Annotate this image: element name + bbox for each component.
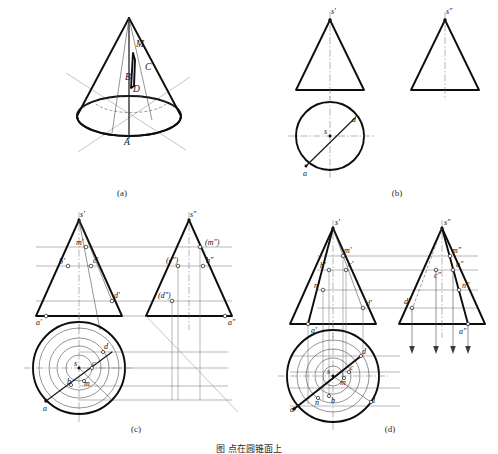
panel-b-line-sa [306, 118, 355, 166]
panel-d-top-ray-1 [333, 376, 371, 402]
panel-b-label-s-prime: s' [331, 7, 336, 16]
panel-d-label-c-prime: c' [348, 260, 354, 269]
panel-c-top-label-b: b [67, 377, 71, 386]
panel-a-section-arc [96, 104, 166, 113]
panel-c-top-label-a: a [43, 404, 47, 413]
panel-c-top-point-a [45, 400, 48, 403]
panel-a-right-generatrix [129, 18, 181, 116]
panel-d-top-point-s [332, 375, 334, 377]
panel-b-label-a: a [303, 169, 307, 178]
panel-c-side-apex-node [188, 219, 191, 222]
panel-d-label-n-prime: n' [314, 281, 320, 290]
panel-c-auxiliary-circle-method: s' m' b' c' d' a' s" (m") (c") b" (d") a… [24, 210, 238, 434]
panel-d-top-label-b: b [331, 396, 335, 405]
panel-c-label-m-prime: m' [76, 238, 84, 247]
figure-root: M C B D A (a) s' s" [0, 0, 498, 454]
panel-c-point-m-prime [84, 245, 88, 249]
panel-d-top-label-c: c [350, 363, 354, 372]
panel-d-label-m-dprime: m" [452, 246, 462, 255]
panel-a-label-M: M [135, 39, 145, 49]
panel-a-left-generatrix [77, 18, 129, 116]
panel-a-caption: (a) [117, 188, 127, 198]
panel-a-label-D: D [132, 84, 140, 94]
panel-d-label-m-prime: m' [344, 246, 352, 255]
panel-d-top-label-s: s [327, 367, 330, 376]
panel-c-mitre-line [146, 316, 238, 412]
panel-c-label-a-dprime: a" [228, 318, 236, 327]
panel-c-top-label-s: s [74, 359, 77, 368]
panel-c-top-label-d: d [104, 342, 109, 351]
panel-b-caption: (b) [392, 188, 403, 198]
panel-d-label-s-prime: s' [335, 218, 340, 227]
panel-d-label-s-dprime: s" [444, 218, 451, 227]
panel-d-label-c-dprime: c" [434, 271, 442, 280]
panel-d-label-d-dprime: d" [404, 297, 412, 306]
panel-d-top-label-m: m [340, 378, 346, 387]
panel-d-front-generatrix-sd [333, 228, 363, 310]
panel-c-point-a-dprime [223, 314, 227, 318]
panel-c-top-label-m: m [84, 379, 90, 388]
panel-c-top-label-c: c [92, 359, 96, 368]
panel-d-top-label-1: 1 [372, 396, 376, 405]
panel-d-label-a-dprime: a" [459, 327, 467, 336]
panel-c-label-d-prime: d' [114, 291, 120, 300]
panel-d-arrow-head-2 [433, 346, 439, 354]
technical-drawing-canvas: M C B D A (a) s' s" [0, 0, 498, 454]
panel-c-point-a-prime [44, 314, 48, 318]
panel-b-point-a-node [305, 165, 307, 167]
panel-d-label-b-dprime: b" [456, 260, 464, 269]
panel-d-arrow-head-3 [450, 346, 456, 354]
panel-a-label-B: B [125, 72, 131, 82]
panel-b-side-apex-node [444, 19, 447, 22]
panel-b-label-s-dprime: s" [446, 7, 453, 16]
panel-a-label-A: A [123, 137, 130, 147]
panel-b-label-s: s [324, 127, 327, 136]
figure-caption: 图 点在圆锥面上 [216, 443, 282, 454]
panel-d-arrow-head-4 [465, 346, 471, 354]
panel-d-top-label-n: n [315, 398, 319, 407]
panel-d-label-b-prime: b' [320, 261, 326, 270]
panel-c-label-b-prime: b' [59, 257, 65, 266]
panel-b-front-apex-node [329, 19, 332, 22]
panel-a-label-C: C [145, 62, 152, 72]
panel-b-center-node [329, 135, 331, 137]
panel-c-label-s-prime: s' [80, 210, 85, 219]
panel-c-label-c-dprime: (c") [166, 256, 179, 265]
panel-c-label-a-prime: a' [36, 318, 42, 327]
panel-a-pictorial-cone: M C B D A (a) [66, 18, 190, 198]
panel-d-top-label-a: a [290, 405, 294, 414]
panel-c-front-generatrix-sm [79, 220, 100, 330]
panel-c-label-m-dprime: (m") [205, 238, 220, 247]
panel-a-segment-md [131, 53, 135, 88]
panel-b-three-views: s' s" s a d (b) [288, 7, 479, 198]
panel-b-label-d: d [352, 115, 357, 124]
panel-c-label-b-dprime: b" [206, 256, 214, 265]
panel-d-point-n-dprime [457, 288, 461, 292]
panel-c-label-d-dprime: (d") [158, 291, 171, 300]
panel-c-point-b-dprime [201, 264, 205, 268]
panel-c-point-b-prime [66, 264, 70, 268]
panel-c-label-c-prime: c' [93, 256, 99, 265]
panel-c-label-s-dprime: s" [190, 210, 197, 219]
panel-d-generatrix-method: s' m' b' c' n' d' a' s" m" c" b" n [278, 218, 485, 434]
panel-d-caption: (d) [385, 424, 396, 434]
panel-d-arrow-head-1 [409, 346, 415, 354]
panel-d-label-d-prime: d' [366, 299, 372, 308]
panel-d-top-label-d: d [362, 347, 367, 356]
panel-c-caption: (c) [131, 424, 141, 434]
panel-d-label-n-dprime: n" [462, 281, 470, 290]
